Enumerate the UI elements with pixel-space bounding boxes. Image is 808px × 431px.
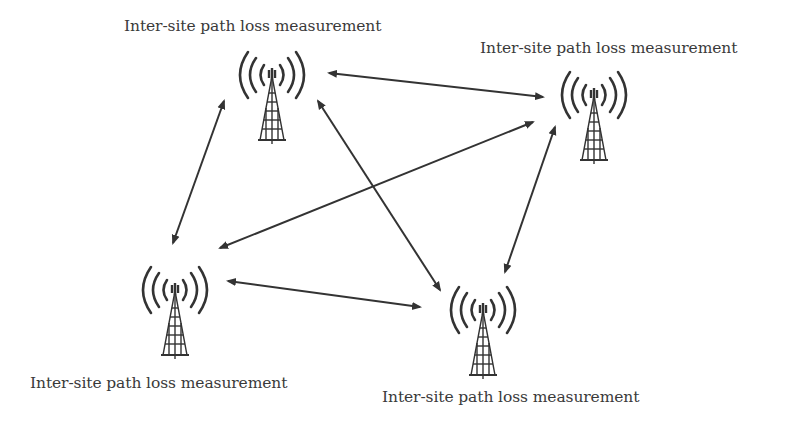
link-arrows [0,0,808,431]
link-bottom-left-bottom-middle [228,281,420,307]
radio-tower-icon [544,60,644,170]
diagram-canvas: Inter-site path loss measurement Inter-s… [0,0,808,431]
radio-tower-icon [433,275,533,385]
link-top-left-bottom-left [173,101,224,243]
site-label-bottom-left: Inter-site path loss measurement [30,374,287,392]
site-label-top-right: Inter-site path loss measurement [480,39,737,57]
radio-tower-icon [125,255,225,365]
radio-tower-icon [222,40,322,150]
link-top-left-top-right [329,73,543,97]
link-top-left-bottom-middle [318,101,440,290]
site-label-top-left: Inter-site path loss measurement [124,17,381,35]
site-label-bottom-middle: Inter-site path loss measurement [382,388,639,406]
